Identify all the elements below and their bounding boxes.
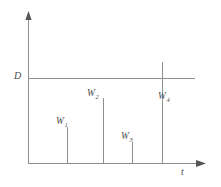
impulse-label-w1-subscript: 1	[64, 121, 67, 128]
x-axis-arrowhead	[196, 160, 206, 167]
y-axis-arrowhead	[25, 11, 31, 20]
impulse-label-w3: W3	[121, 132, 133, 142]
impulse-label-w1: W1	[56, 117, 68, 127]
impulse-label-w3-base: W	[121, 131, 129, 141]
impulse-label-w2-subscript: 2	[95, 93, 98, 100]
impulse-label-w3-subscript: 3	[129, 136, 132, 143]
impulse-label-w2-base: W	[87, 88, 95, 98]
impulse-diagram-figure: D t W1 W2 W3 W4	[0, 0, 221, 187]
threshold-label-D: D	[14, 71, 21, 81]
impulse-label-w4: W4	[158, 92, 170, 102]
x-axis-label-t: t	[181, 168, 184, 178]
impulse-label-w4-subscript: 4	[166, 96, 169, 103]
impulse-label-w1-base: W	[56, 116, 64, 126]
plot-canvas	[0, 0, 221, 187]
impulse-label-w2: W2	[87, 89, 99, 99]
impulse-label-w4-base: W	[158, 91, 166, 101]
